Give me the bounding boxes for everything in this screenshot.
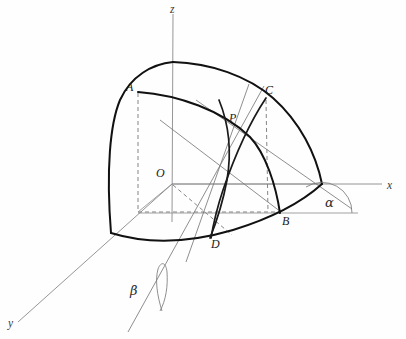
- angle-arc-group: [157, 182, 352, 311]
- axis-label-y: y: [8, 318, 13, 330]
- point-label-a: A: [126, 81, 133, 93]
- axis-label-x: x: [387, 180, 392, 192]
- z-axis-line: [172, 14, 173, 222]
- dashed-drop-from-c: [266, 100, 268, 212]
- point-label-p: P: [229, 112, 236, 124]
- arc-apex-to-y: [109, 62, 173, 233]
- arc-apex-to-c-to-x: [173, 62, 322, 184]
- figure-canvas: [0, 0, 406, 339]
- point-label-c: C: [265, 84, 273, 96]
- ray-op-extended: [128, 86, 264, 332]
- geometry-figure: z x y A C P O B D α β: [0, 0, 406, 339]
- axis-label-z: z: [170, 4, 174, 16]
- angle-label-beta: β: [130, 284, 138, 297]
- dashed-radial-to-d: [173, 185, 232, 235]
- base-edge-left: [138, 184, 172, 212]
- arc-p-to-d: [210, 100, 229, 238]
- point-label-o: O: [156, 167, 165, 179]
- y-axis-line: [18, 184, 172, 322]
- axis-group: [18, 14, 382, 322]
- point-label-d: D: [211, 238, 220, 250]
- point-label-b: B: [282, 215, 289, 227]
- angle-label-alpha: α: [325, 196, 334, 209]
- chord-c-to-base: [186, 84, 249, 262]
- sector-outline-group: [109, 62, 322, 241]
- tangent-through-p: [196, 100, 352, 209]
- construction-dashed-group: [138, 93, 280, 235]
- thin-line-group: [128, 84, 358, 332]
